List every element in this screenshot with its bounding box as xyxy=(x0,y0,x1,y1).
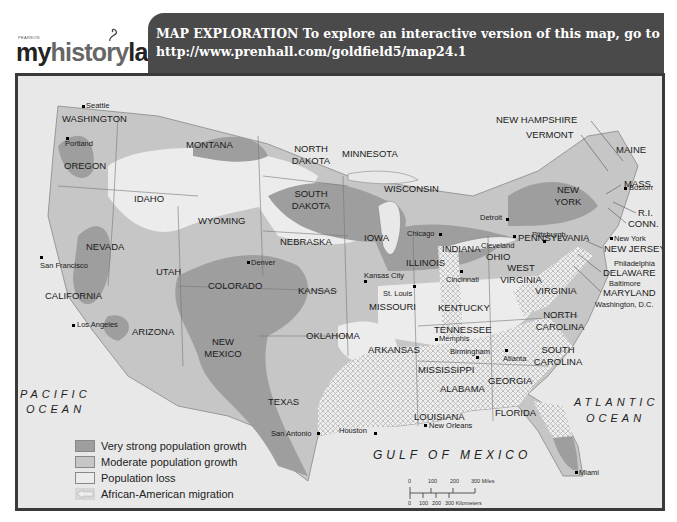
water-label-atlantic: ATLANTIC xyxy=(574,397,658,408)
city-label-baltimore: Baltimore xyxy=(609,280,641,288)
city-label-philadelphia: Philadelphia xyxy=(614,260,655,268)
city-dot-miami xyxy=(575,471,578,474)
city-dot-new-york xyxy=(610,237,613,240)
city-dot-boston xyxy=(624,187,627,190)
state-label-utah: UTAH xyxy=(156,267,181,277)
city-dot-pittsburgh xyxy=(543,240,546,243)
city-label-cleveland: Cleveland xyxy=(481,242,514,250)
water-label-atlantic-ocean: OCEAN xyxy=(586,413,645,424)
state-label-new-jersey: NEW JERSEY xyxy=(604,244,665,254)
map-legend: Very strong population growth Moderate p… xyxy=(75,438,247,502)
legend-label: Moderate population growth xyxy=(101,456,237,468)
banner-url-link[interactable]: http://www.prenhall.com/goldfield5/map24… xyxy=(156,44,467,59)
state-label-wyoming: WYOMING xyxy=(198,216,246,226)
scale-km-tick: 100 xyxy=(419,500,428,506)
water-label-pacific: PACIFIC xyxy=(20,389,91,400)
city-label-denver: Denver xyxy=(251,259,275,267)
scale-km-tick: 300 Kilometers xyxy=(445,500,482,506)
city-dot-detroit xyxy=(506,218,509,221)
city-dot-cleveland xyxy=(513,235,516,238)
city-dot-san-antonio xyxy=(317,432,320,435)
state-label-west-virginia: WEST VIRGINIA xyxy=(496,262,546,286)
city-label-houston: Houston xyxy=(339,427,367,435)
state-label-virginia: VIRGINIA xyxy=(535,286,577,296)
city-label-atlanta: Atlanta xyxy=(503,355,526,363)
city-label-san-francisco: San Francisco xyxy=(40,262,88,270)
city-dot-san-francisco xyxy=(40,256,43,259)
city-label-portland: Portland xyxy=(65,140,93,148)
city-dot-los-angeles xyxy=(72,324,75,327)
state-label-new-york: NEW YORK xyxy=(548,184,588,208)
scale-ruler xyxy=(408,486,488,500)
state-label-north-dakota: NORTH DAKOTA xyxy=(286,143,336,167)
city-dot-seattle xyxy=(82,105,85,108)
city-dot-atlanta xyxy=(505,349,508,352)
state-label-washington: WASHINGTON xyxy=(62,114,127,124)
state-label-colorado: COLORADO xyxy=(208,281,262,291)
scale-mile-tick: 200 xyxy=(450,478,459,484)
city-label-new-york: New York xyxy=(614,235,646,243)
state-label-mississippi: MISSISSIPPI xyxy=(418,365,475,375)
legend-item-moderate-growth: Moderate population growth xyxy=(75,454,247,470)
state-label-minnesota: MINNESOTA xyxy=(342,149,398,159)
state-label-alabama: ALABAMA xyxy=(440,384,485,394)
scale-mile-tick: 300 Miles xyxy=(471,478,495,484)
legend-swatch-moderate xyxy=(75,456,95,468)
state-label-south-carolina: SOUTH CAROLINA xyxy=(528,344,588,368)
legend-label: Very strong population growth xyxy=(101,440,247,452)
state-label-new-mexico: NEW MEXICO xyxy=(203,336,243,360)
city-label-kansas-city: Kansas City xyxy=(364,272,404,280)
state-label-montana: MONTANA xyxy=(186,140,233,150)
city-label-new-orleans: New Orleans xyxy=(429,422,472,430)
map-exploration-banner: MAP EXPLORATION To explore an interactiv… xyxy=(148,13,664,74)
state-label-arizona: ARIZONA xyxy=(132,327,174,337)
state-label-wisconsin: WISCONSIN xyxy=(384,184,439,194)
city-dot-memphis xyxy=(435,338,438,341)
state-label-vermont: VERMONT xyxy=(526,130,574,140)
scale-bar: 0 100 200 300 Miles 0 100 200 300 Kilome… xyxy=(408,478,518,512)
brand-part-my: my xyxy=(16,38,51,66)
state-label-delaware: DELAWARE xyxy=(603,268,656,278)
city-dot-denver xyxy=(247,261,250,264)
state-label-nebraska: NEBRASKA xyxy=(280,237,332,247)
state-label-nevada: NEVADA xyxy=(86,242,124,252)
migration-arrow-icon xyxy=(75,488,95,500)
state-label-idaho: IDAHO xyxy=(134,194,164,204)
scale-mile-tick: 0 xyxy=(408,478,411,484)
water-label-pacific-ocean: OCEAN xyxy=(26,404,85,415)
state-label-california: CALIFORNIA xyxy=(45,291,102,301)
state-label-kentucky: KENTUCKY xyxy=(438,303,490,313)
city-label-miami: Miami xyxy=(579,469,599,477)
city-label-birmingham: Birmingham xyxy=(450,348,490,356)
city-label-san-antonio: San Antonio xyxy=(271,430,311,438)
city-label-seattle: Seattle xyxy=(86,102,109,110)
state-label-maryland: MARYLAND xyxy=(603,288,656,298)
state-label-florida: FLORIDA xyxy=(495,408,536,418)
state-label-missouri: MISSOURI xyxy=(369,302,416,312)
scale-mile-tick: 100 xyxy=(428,478,437,484)
city-label-chicago: Chicago xyxy=(407,230,435,238)
state-label-texas: TEXAS xyxy=(268,397,299,407)
legend-label: African-American migration xyxy=(101,488,234,500)
state-label-maine: MAINE xyxy=(616,145,646,155)
state-label-arkansas: ARKANSAS xyxy=(368,345,420,355)
myhistorylab-logo: PEARSON myhistorylab xyxy=(14,24,146,64)
state-label-conn: CONN. xyxy=(628,219,659,229)
scale-km-tick: 0 xyxy=(408,500,411,506)
legend-swatch-loss xyxy=(75,472,95,484)
state-label-new-hampshire: NEW HAMPSHIRE xyxy=(496,115,577,125)
city-label-pittsburgh: Pittsburgh xyxy=(532,231,566,239)
city-label-boston: Boston xyxy=(629,184,652,192)
legend-item-population-loss: Population loss xyxy=(75,470,247,486)
city-dot-birmingham xyxy=(476,356,479,359)
city-label-washington-dc: Washington, D.C. xyxy=(595,301,654,309)
city-label-cincinnati: Cincinnati xyxy=(446,276,479,284)
state-label-south-dakota: SOUTH DAKOTA xyxy=(286,188,336,212)
city-label-st-louis: St. Louis xyxy=(383,290,412,298)
banner-title: MAP EXPLORATION To explore an interactiv… xyxy=(156,26,660,41)
legend-swatch-very-strong xyxy=(75,440,95,452)
brand-part-history: history xyxy=(51,38,129,66)
city-dot-kansas-city xyxy=(364,280,367,283)
state-label-iowa: IOWA xyxy=(364,233,389,243)
state-label-north-carolina: NORTH CAROLINA xyxy=(530,309,590,333)
